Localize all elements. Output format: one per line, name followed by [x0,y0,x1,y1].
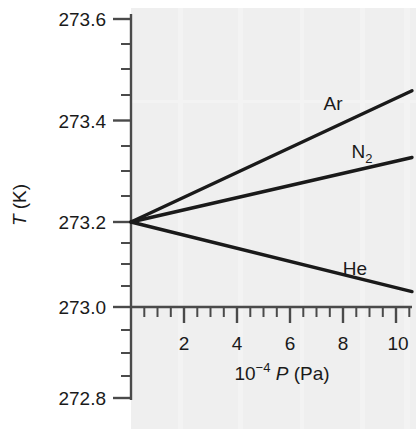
y-axis-unit: (K) [9,184,30,209]
x-tick-label-6: 6 [285,333,296,354]
x-tick-label-2: 2 [179,333,190,354]
series-label-ar: Ar [324,93,344,114]
series-label-he: He [343,258,367,279]
x-axis-title: 10−4 P (Pa) [234,360,329,384]
y-tick-label-273-4: 273.4 [58,111,106,132]
y-axis-title: T (K) [9,184,30,226]
x-tick-label-4: 4 [232,333,243,354]
y-tick-label-273-6: 273.6 [58,9,106,30]
svg-text:T (K): T (K) [9,184,30,226]
x-tick-label-10: 10 [387,333,408,354]
y-tick-label-273-0: 273.0 [58,297,106,318]
x-axis-mantissa: 10 [234,363,255,384]
y-tick-label-272-8: 272.8 [58,388,106,409]
y-tick-label-273-2: 273.2 [58,212,106,233]
x-axis-symbol: P [276,363,289,384]
temperature-vs-pressure-chart: 273.6 273.4 273.2 273.0 272.8 T (K) [0,0,416,429]
x-axis-exponent: −4 [256,360,271,375]
series-label-n2-text: N [352,141,366,162]
x-axis-unit: (Pa) [294,363,330,384]
x-tick-label-8: 8 [338,333,349,354]
